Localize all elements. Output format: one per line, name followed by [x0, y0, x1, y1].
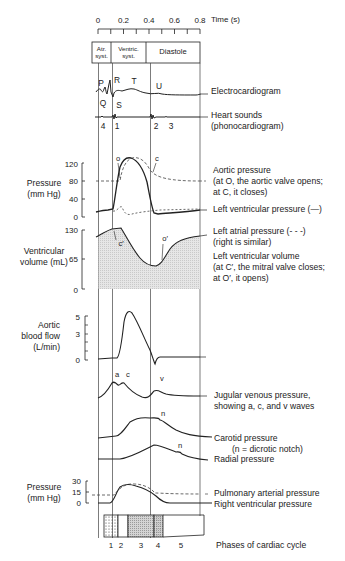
- phase-3: 3: [139, 541, 144, 550]
- right-pressure-ylabel-1: Pressure: [27, 482, 62, 492]
- ecg-u-label: U: [156, 81, 162, 91]
- heart-sounds-label-2: (phonocardiogram): [211, 121, 284, 131]
- jugular-a-wave: a: [115, 370, 120, 379]
- flow-ylabel-3: (L/min): [33, 342, 60, 352]
- aortic-label-2: (at O, the aortic valve opens;: [213, 176, 323, 186]
- mitral-open-marker: o′: [162, 234, 168, 243]
- header-ventricular-2: syst.: [122, 52, 135, 59]
- carotid-label-2: (n = dicrotic notch): [232, 444, 303, 454]
- phases-label: Phases of cardiac cycle: [216, 540, 306, 550]
- flow-ylabel-2: blood flow: [21, 331, 60, 341]
- aortic-close-marker: c: [155, 154, 159, 163]
- phase-1: 1: [109, 541, 114, 550]
- lv-pressure-label: Left ventricular pressure (—): [213, 204, 322, 214]
- phase-2: 2: [119, 541, 124, 550]
- volume-ylabel-1: Ventricular: [24, 246, 65, 256]
- volume-tick-65: 65: [69, 255, 78, 264]
- carotid-panel: n Carotid pressure (n = dicrotic notch): [98, 409, 303, 454]
- jugular-c-wave: c: [126, 370, 130, 379]
- la-pressure-label-2: (right is similar): [213, 237, 271, 247]
- time-axis: 0 0.2 0.4 0.6 0.8 Time (s): [96, 15, 241, 34]
- pressure-tick-0: 0: [74, 213, 79, 222]
- heart-sound-2: 2: [154, 121, 159, 131]
- lv-volume-label-1: Left ventricular volume: [213, 251, 300, 261]
- jugular-panel: a c v Jugular venous pressure, showing a…: [98, 370, 314, 411]
- pressure-ylabel-2: (mm Hg): [27, 189, 61, 199]
- right-pressure-tick-30: 30: [72, 477, 81, 486]
- aortic-open-marker: o: [116, 154, 120, 163]
- mitral-close-marker: c′: [118, 239, 124, 248]
- flow-ylabel-1: Aortic: [38, 320, 61, 330]
- ecg-p-label: P: [98, 78, 104, 88]
- cardiac-cycle-diagram: 0 0.2 0.4 0.6 0.8 Time (s) Atr. syst. Ve…: [0, 0, 345, 561]
- phase-4: 4: [156, 541, 161, 550]
- phases-bar: 1 2 3 4 5 Phases of cardiac cycle: [104, 515, 306, 550]
- pressure-tick-120: 120: [65, 160, 79, 169]
- ecg-t-label: T: [131, 76, 136, 86]
- time-tick-0.8: 0.8: [194, 16, 206, 25]
- aortic-label-1: Aortic pressure: [213, 165, 271, 175]
- time-tick-0.2: 0.2: [118, 16, 130, 25]
- radial-label: Radial pressure: [214, 454, 274, 464]
- heart-sounds-trace: 4 1 2 3 Heart sounds (phonocardiogram): [95, 110, 284, 131]
- aortic-label-3: at C, it closes): [213, 187, 268, 197]
- time-axis-label: Time (s): [211, 15, 240, 24]
- phase-guide-lines: [99, 63, 201, 538]
- flow-tick-5: 5: [76, 313, 81, 322]
- heart-sound-1: 1: [115, 121, 120, 131]
- right-pressure-tick-15: 15: [72, 488, 81, 497]
- ecg-r-label: R: [114, 75, 120, 85]
- header-atrial-2: syst.: [95, 52, 108, 59]
- aortic-flow-panel: Aortic blood flow (L/min) 5 3 0: [21, 312, 206, 365]
- lv-volume-label-3: at O′, it opens): [213, 273, 269, 283]
- header-diastole: Diastole: [159, 47, 186, 56]
- jugular-label-2: showing a, c, and v waves: [214, 401, 314, 411]
- right-pressure-panel: Pressure (mm Hg) 30 15 0 Pulmonary arter…: [27, 477, 320, 509]
- ecg-s-label: S: [116, 100, 122, 110]
- pulmonary-label: Pulmonary arterial pressure: [214, 488, 320, 498]
- carotid-notch-marker: n: [161, 409, 165, 418]
- ecg-trace: P Q R S T U Electrocardiogram: [96, 75, 281, 110]
- pressure-ylabel-1: Pressure: [27, 178, 62, 188]
- la-pressure-label-1: Left atrial pressure (- - -): [213, 226, 306, 236]
- time-tick-0.6: 0.6: [169, 16, 181, 25]
- pressure-tick-40: 40: [69, 195, 78, 204]
- ecg-label: Electrocardiogram: [211, 86, 281, 96]
- heart-sound-3: 3: [169, 121, 174, 131]
- right-pressure-tick-0: 0: [77, 499, 82, 508]
- radial-notch-marker: n: [178, 441, 182, 450]
- right-pressure-ylabel-2: (mm Hg): [27, 493, 61, 503]
- time-tick-0: 0: [96, 16, 101, 25]
- ecg-q-label: Q: [100, 98, 107, 108]
- volume-ylabel-2: volume (mL): [20, 257, 68, 267]
- jugular-label-1: Jugular venous pressure,: [214, 390, 311, 400]
- rv-pressure-label: Right ventricular pressure: [214, 499, 312, 509]
- pressure-tick-80: 80: [69, 177, 78, 186]
- heart-sounds-label-1: Heart sounds: [211, 110, 262, 120]
- flow-tick-3: 3: [76, 330, 81, 339]
- jugular-v-wave: v: [160, 374, 164, 383]
- phase-5: 5: [179, 541, 184, 550]
- volume-tick-0: 0: [74, 286, 79, 295]
- time-tick-0.4: 0.4: [143, 16, 155, 25]
- carotid-label-1: Carotid pressure: [214, 433, 278, 443]
- phase-header: Atr. syst. Ventric. syst. Diastole: [92, 42, 200, 63]
- heart-sound-4: 4: [101, 121, 106, 131]
- volume-panel: Ventricular volume (mL) 130 65 0 c′ o′ L…: [20, 226, 325, 295]
- flow-tick-0: 0: [76, 356, 81, 365]
- lv-volume-label-2: (at C′, the mitral valve closes;: [213, 262, 325, 272]
- volume-tick-130: 130: [65, 226, 79, 235]
